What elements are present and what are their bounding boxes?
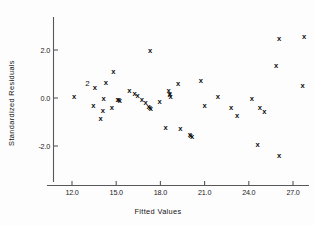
data-point-marker: x xyxy=(300,81,305,90)
data-point-marker: x xyxy=(93,83,98,92)
data-point-marker: x xyxy=(277,151,282,160)
data-point-marker: x xyxy=(262,107,267,116)
data-point-marker: x xyxy=(216,92,221,101)
data-point-marker: x xyxy=(72,92,77,101)
data-point-marker: x xyxy=(256,140,261,149)
data-point-marker: x xyxy=(302,32,307,41)
data-point-marker: x xyxy=(158,97,163,106)
data-point-marker: x xyxy=(111,67,116,76)
data-point-marker: x xyxy=(104,78,109,87)
y-axis: 2.00.0-2.0 xyxy=(38,17,58,182)
x-axis-title: Fitted Values xyxy=(134,207,181,216)
data-point-marker: x xyxy=(277,34,282,43)
data-point-marker: x xyxy=(229,103,234,112)
x-tick-label: 24.0 xyxy=(242,188,255,197)
scatter-plot-figure: 2.00.0-2.0 12.015.018.021.024.027.0 xxxx… xyxy=(0,0,315,225)
x-axis: 12.015.018.021.024.027.0 xyxy=(47,181,309,197)
data-point-marker: x xyxy=(99,114,104,123)
x-tick-label: 12.0 xyxy=(65,188,78,197)
data-point-marker: x xyxy=(250,94,255,103)
data-point-marker: x xyxy=(176,79,181,88)
data-point-marker: x xyxy=(110,103,115,112)
x-tick-label: 18.0 xyxy=(154,188,167,197)
y-axis-title: Standardized Residuals xyxy=(7,60,16,146)
data-points-layer: xxxxxxxxxxxxxxxxxxxxxxxxxxxxxxxxxxxxxxxx… xyxy=(72,32,307,160)
x-tick-label: 27.0 xyxy=(286,188,299,197)
data-point-marker: x xyxy=(202,101,207,110)
y-tick-label: 0.0 xyxy=(41,94,51,103)
data-point-marker: x xyxy=(91,101,96,110)
data-point-marker: x xyxy=(274,61,279,70)
data-point-marker: x xyxy=(102,94,107,103)
data-point-marker: x xyxy=(235,111,240,120)
x-tick-label: 15.0 xyxy=(110,188,123,197)
data-point-marker: x xyxy=(148,46,153,55)
y-tick-label: 2.0 xyxy=(41,46,51,55)
data-point-marker: x xyxy=(178,124,183,133)
x-tick-label: 21.0 xyxy=(198,188,211,197)
plot-canvas: 2.00.0-2.0 12.015.018.021.024.027.0 xxxx… xyxy=(0,0,315,225)
y-tick-label: -2.0 xyxy=(38,142,50,151)
data-point-marker: x xyxy=(163,123,168,132)
overlap-count-label: 2 xyxy=(85,79,90,88)
data-point-marker: x xyxy=(199,76,204,85)
